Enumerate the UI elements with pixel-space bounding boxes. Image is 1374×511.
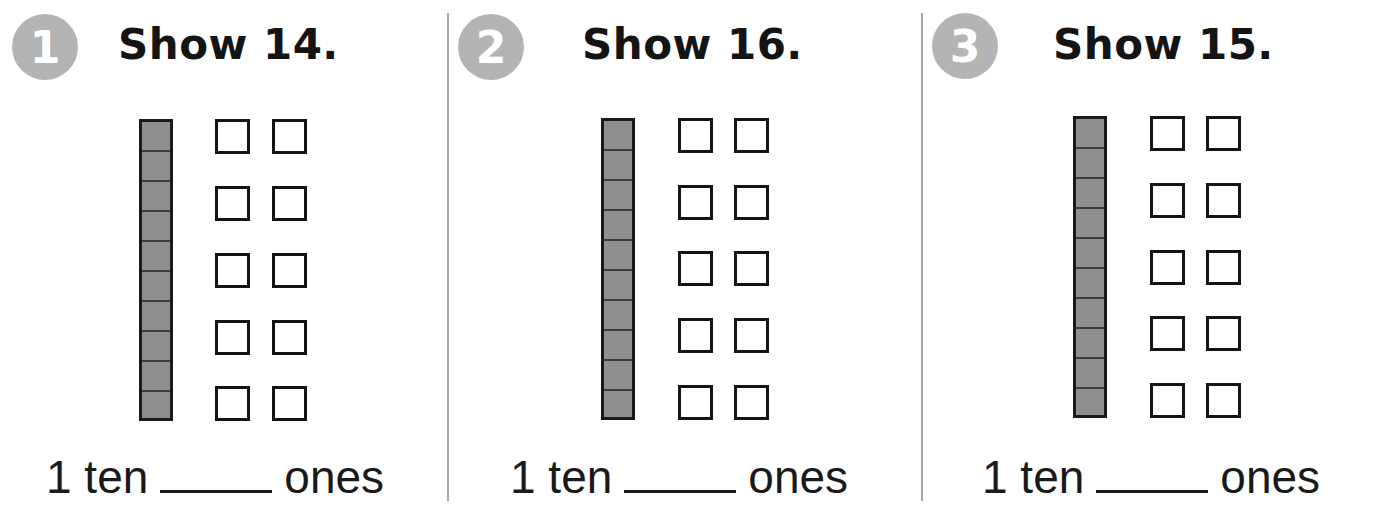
ones-box[interactable] — [1206, 183, 1241, 218]
ones-box[interactable] — [734, 385, 769, 420]
ones-box[interactable] — [215, 253, 250, 288]
number-badge-label: 2 — [476, 22, 507, 73]
ones-box[interactable] — [678, 318, 713, 353]
ones-box[interactable] — [215, 119, 250, 154]
sentence-prefix: 1 ten — [46, 451, 148, 503]
ones-box[interactable] — [678, 185, 713, 220]
number-badge: 3 — [932, 13, 998, 79]
number-badge-label: 1 — [30, 22, 61, 73]
ones-box[interactable] — [678, 251, 713, 286]
ones-box[interactable] — [1206, 316, 1241, 351]
answer-blank[interactable] — [160, 454, 272, 493]
answer-sentence: 1 tenones — [46, 450, 384, 504]
ones-box[interactable] — [678, 118, 713, 153]
sentence-suffix: ones — [284, 451, 384, 503]
answer-blank[interactable] — [624, 454, 736, 493]
ones-box[interactable] — [1150, 116, 1185, 151]
sentence-suffix: ones — [748, 451, 848, 503]
ones-box[interactable] — [1206, 116, 1241, 151]
ones-box[interactable] — [1206, 383, 1241, 418]
ones-box[interactable] — [734, 251, 769, 286]
tens-rod — [139, 119, 173, 421]
ones-box[interactable] — [272, 253, 307, 288]
ones-box[interactable] — [734, 185, 769, 220]
answer-blank[interactable] — [1096, 454, 1208, 493]
sentence-prefix: 1 ten — [510, 451, 612, 503]
problem-title: Show 16. — [582, 20, 803, 69]
ones-box[interactable] — [1150, 383, 1185, 418]
sentence-prefix: 1 ten — [982, 451, 1084, 503]
problem-title: Show 14. — [118, 20, 339, 69]
number-badge-label: 3 — [950, 21, 981, 72]
ones-box[interactable] — [215, 320, 250, 355]
ones-box[interactable] — [272, 386, 307, 421]
ones-box[interactable] — [734, 318, 769, 353]
ones-box[interactable] — [1150, 250, 1185, 285]
ones-box[interactable] — [1150, 183, 1185, 218]
answer-sentence: 1 tenones — [510, 450, 848, 504]
number-badge: 2 — [458, 14, 524, 80]
answer-sentence: 1 tenones — [982, 450, 1320, 504]
tens-rod — [1073, 116, 1107, 418]
tens-rod — [601, 118, 635, 420]
ones-box[interactable] — [272, 119, 307, 154]
ones-box[interactable] — [215, 386, 250, 421]
sentence-suffix: ones — [1220, 451, 1320, 503]
divider-1 — [447, 13, 449, 501]
ones-box[interactable] — [1150, 316, 1185, 351]
number-badge: 1 — [12, 14, 78, 80]
ones-box[interactable] — [272, 320, 307, 355]
ones-box[interactable] — [215, 186, 250, 221]
ones-box[interactable] — [272, 186, 307, 221]
divider-2 — [921, 13, 923, 501]
ones-box[interactable] — [734, 118, 769, 153]
ones-box[interactable] — [1206, 250, 1241, 285]
ones-box[interactable] — [678, 385, 713, 420]
problem-title: Show 15. — [1053, 20, 1274, 69]
